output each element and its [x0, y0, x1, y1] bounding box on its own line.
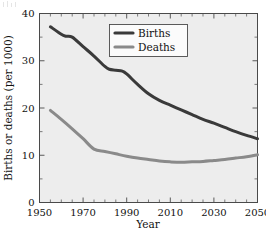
y-tick-label: 40 [22, 8, 35, 19]
y-axis-title: Births or deaths (per 1000) [2, 35, 14, 181]
x-tick-label: 1970 [70, 207, 95, 218]
x-tick-label: 1950 [27, 207, 52, 218]
x-axis-title: Year [135, 218, 160, 230]
x-tick-label: 2010 [158, 207, 183, 218]
y-tick-label: 20 [22, 103, 35, 114]
chart-svg: 010203040 195019701990201020302050 Birth… [0, 0, 266, 232]
y-tick-label: 10 [22, 150, 35, 161]
line-chart-figure: 010203040 195019701990201020302050 Birth… [0, 0, 266, 232]
chart-legend: Births Deaths [110, 25, 188, 57]
x-tick-label: 1990 [114, 207, 139, 218]
legend-label-deaths: Deaths [138, 41, 175, 53]
x-tick-label: 2050 [245, 207, 266, 218]
y-tick-label: 30 [22, 55, 35, 66]
legend-label-births: Births [138, 27, 170, 39]
x-tick-label: 2030 [201, 207, 226, 218]
